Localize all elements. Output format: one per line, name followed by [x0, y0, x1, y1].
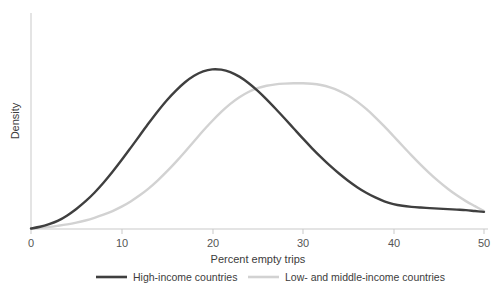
x-tick-label-50: 50 [478, 237, 490, 249]
x-tick-label-40: 40 [388, 237, 400, 249]
legend-label-high-income: High-income countries [133, 271, 237, 283]
series-line-high-income [31, 69, 484, 228]
chart-canvas: 0 10 20 30 40 50 Percent empty trips Den… [0, 0, 502, 293]
chart-legend: High-income countries Low- and middle-in… [96, 271, 445, 283]
density-chart: 0 10 20 30 40 50 Percent empty trips Den… [0, 0, 502, 293]
x-tick-label-20: 20 [207, 237, 219, 249]
x-tick-label-30: 30 [297, 237, 309, 249]
x-tick-label-0: 0 [28, 237, 34, 249]
legend-label-low-middle-income: Low- and middle-income countries [285, 271, 445, 283]
y-axis-title: Density [9, 102, 21, 139]
x-axis-title: Percent empty trips [211, 253, 306, 265]
x-tick-label-10: 10 [116, 237, 128, 249]
x-axis-ticks [31, 229, 484, 234]
